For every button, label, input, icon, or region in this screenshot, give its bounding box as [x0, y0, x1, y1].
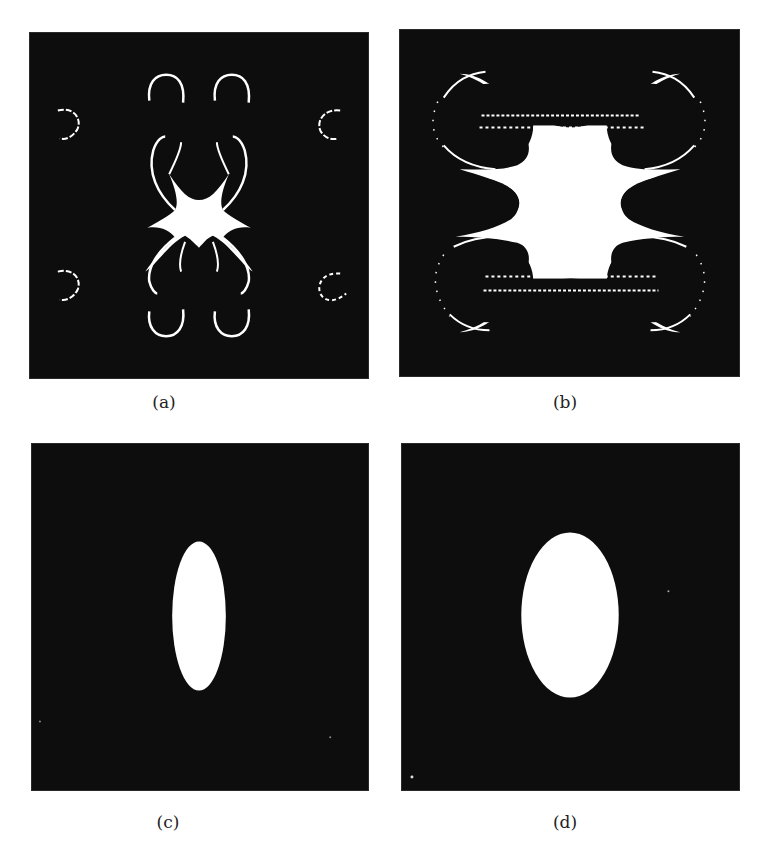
- caption-b: (b): [535, 392, 595, 412]
- panel-d: [401, 443, 740, 791]
- panel-d-image: [402, 444, 739, 790]
- caption-a: (a): [134, 392, 194, 412]
- panel-b: [399, 29, 740, 377]
- panel-a-image: [30, 33, 368, 378]
- panel-a: [29, 32, 369, 379]
- caption-c: (c): [138, 812, 198, 832]
- panel-b-image: [400, 30, 739, 376]
- caption-d: (d): [535, 812, 595, 832]
- panel-c: [31, 443, 369, 791]
- panel-c-image: [32, 444, 368, 790]
